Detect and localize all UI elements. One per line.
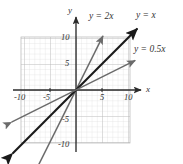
x-axis-label: x: [146, 85, 150, 94]
x-tick-label-neg10: -10: [14, 93, 25, 102]
line-label-y-equals-0point5x: y = 0.5x: [134, 45, 165, 55]
coordinate-plane-svg: [0, 0, 183, 164]
graph-figure: y x -10 -5 5 10 10 5 -5 -10 y = 2x y = x…: [0, 0, 183, 164]
y-tick-label-neg10: -10: [58, 140, 69, 149]
line-label-y-equals-x: y = x: [136, 11, 156, 21]
x-tick-label-10: 10: [124, 93, 133, 102]
y-tick-label-5: 5: [65, 59, 69, 68]
x-tick-label-5: 5: [100, 93, 104, 102]
line-label-y-equals-2x: y = 2x: [89, 12, 113, 22]
y-axis-label: y: [68, 6, 72, 15]
y-tick-label-10: 10: [61, 33, 70, 42]
y-tick-label-neg5: -5: [62, 115, 69, 124]
x-tick-label-neg5: -5: [43, 93, 50, 102]
